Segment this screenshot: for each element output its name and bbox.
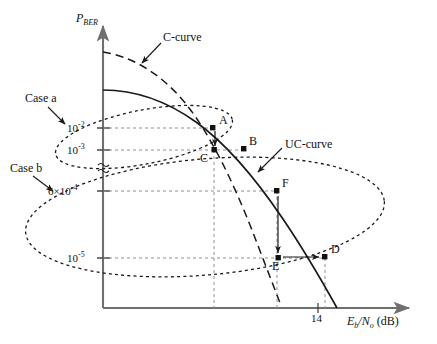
y-tick-label-1e-3-mantissa: 10 <box>67 144 78 156</box>
point-marker-D <box>322 254 327 259</box>
leader-c-curve <box>142 43 161 63</box>
point-label-A: A <box>219 114 228 126</box>
ber-performance-figure: PBER Eb/No (dB) 10-2 10-3 6×10-4 10-5 14… <box>0 0 437 344</box>
uc-curve-label: UC-curve <box>285 138 332 150</box>
y-tick-label-6e-4-exp: -4 <box>71 183 78 192</box>
y-tick-label-1e-2: 10-2 <box>67 121 85 134</box>
y-axis-label: PBER <box>76 12 98 27</box>
y-tick-label-1e-5-exp: -5 <box>78 250 85 259</box>
point-marker-C <box>212 147 217 152</box>
y-axis-label-sub: BER <box>83 18 98 27</box>
y-tick-label-1e-3-exp: -3 <box>78 142 85 151</box>
y-tick-label-1e-2-exp: -2 <box>78 120 85 129</box>
point-marker-A <box>210 125 215 130</box>
y-tick-label-1e-5-mantissa: 10 <box>67 252 78 264</box>
point-label-D: D <box>331 243 340 255</box>
x-tick-label-14: 14 <box>311 313 322 324</box>
guide-line-group <box>103 128 325 308</box>
y-tick-label-1e-3: 10-3 <box>67 143 85 156</box>
x-axis-label-slash-n: /N <box>358 314 369 328</box>
x-axis-label-unit-text: (dB) <box>377 314 399 328</box>
y-tick-label-1e-2-mantissa: 10 <box>67 122 78 134</box>
leader-uc-curve <box>258 148 282 172</box>
point-marker-B <box>241 146 246 151</box>
x-axis-label: Eb/No (dB) <box>347 315 399 330</box>
y-tick-label-6e-4: 6×10-4 <box>48 184 77 197</box>
figure-canvas <box>0 0 437 344</box>
case-a-label: Case a <box>25 92 57 104</box>
point-marker-F <box>274 188 279 193</box>
point-label-C: C <box>200 152 208 164</box>
case-b-ellipse <box>21 144 390 291</box>
case-b-label: Case b <box>10 162 42 174</box>
y-tick-label-1e-5: 10-5 <box>67 251 85 264</box>
point-label-E: E <box>272 260 279 272</box>
leader-case-a <box>48 107 65 124</box>
y-tick-label-6e-4-mantissa: 6×10 <box>48 185 71 197</box>
point-label-B: B <box>249 135 257 147</box>
point-label-F: F <box>282 177 289 189</box>
c-curve-label: C-curve <box>163 31 202 43</box>
